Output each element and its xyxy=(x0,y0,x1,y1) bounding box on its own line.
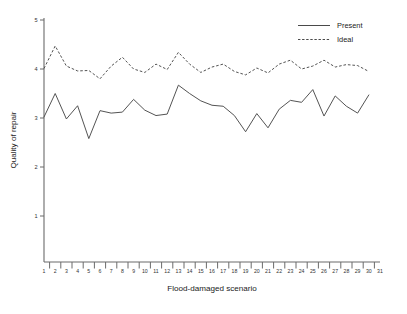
x-tick-label: 12 xyxy=(164,268,170,274)
x-tick-label: 13 xyxy=(176,268,182,274)
x-tick-label: 7 xyxy=(110,268,113,274)
x-tick-label: 3 xyxy=(65,268,68,274)
chart-legend: Present Ideal xyxy=(298,21,362,44)
x-tick-label: 1 xyxy=(43,268,46,274)
x-tick-label: 6 xyxy=(99,268,102,274)
x-tick-label: 8 xyxy=(121,268,124,274)
x-tick-label: 16 xyxy=(209,268,215,274)
series-line-present xyxy=(44,85,369,138)
x-axis-tick-labels: 1234567891011121314151617181920212223242… xyxy=(43,268,383,274)
x-tick-label: 14 xyxy=(187,268,193,274)
x-tick-label: 9 xyxy=(132,268,135,274)
x-tick-label: 29 xyxy=(355,268,361,274)
y-tick-label: 3 xyxy=(34,115,37,121)
y-axis-tick-labels: 12345 xyxy=(34,17,37,219)
y-tick-label: 1 xyxy=(34,213,37,219)
x-tick-label: 25 xyxy=(310,268,316,274)
x-tick-label: 28 xyxy=(344,268,350,274)
x-tick-label: 21 xyxy=(265,268,271,274)
y-axis-ticks xyxy=(40,20,44,216)
x-tick-label: 5 xyxy=(87,268,90,274)
x-tick-label: 18 xyxy=(232,268,238,274)
y-tick-label: 2 xyxy=(34,164,37,170)
series-line-ideal xyxy=(44,46,369,79)
y-tick-label: 5 xyxy=(34,17,37,23)
x-tick-label: 24 xyxy=(299,268,305,274)
x-tick-label: 31 xyxy=(377,268,383,274)
x-tick-label: 4 xyxy=(76,268,79,274)
x-tick-label: 30 xyxy=(366,268,372,274)
x-tick-label: 11 xyxy=(153,268,158,274)
x-tick-label: 2 xyxy=(54,268,57,274)
line-chart: 12345 1234567891011121314151617181920212… xyxy=(0,0,407,296)
x-tick-label: 10 xyxy=(142,268,148,274)
x-tick-label: 22 xyxy=(276,268,282,274)
figure-caption xyxy=(0,296,407,314)
x-tick-label: 19 xyxy=(243,268,249,274)
y-tick-label: 4 xyxy=(34,66,37,72)
x-tick-label: 20 xyxy=(254,268,260,274)
chart-figure: 12345 1234567891011121314151617181920212… xyxy=(0,0,407,296)
y-axis-title: Quality of repair xyxy=(9,111,18,168)
x-tick-label: 17 xyxy=(220,268,226,274)
x-tick-label: 27 xyxy=(332,268,338,274)
figure-root: 12345 1234567891011121314151617181920212… xyxy=(0,0,407,314)
x-axis-title: Flood-damaged scenario xyxy=(167,284,257,293)
x-tick-label: 23 xyxy=(288,268,294,274)
x-tick-label: 26 xyxy=(321,268,327,274)
legend-label-ideal: Ideal xyxy=(337,35,353,44)
legend-label-present: Present xyxy=(337,21,362,30)
x-tick-label: 15 xyxy=(198,268,204,274)
